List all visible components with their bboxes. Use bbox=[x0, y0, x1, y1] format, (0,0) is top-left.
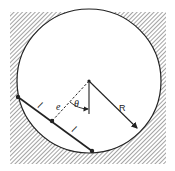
offset-label: e bbox=[56, 101, 61, 112]
center-point bbox=[87, 79, 90, 82]
radius-label: R bbox=[119, 103, 126, 113]
circle-chord-diagram: R e θ l l bbox=[0, 0, 175, 171]
chord-endpoint-lower bbox=[90, 149, 94, 153]
angle-label: θ bbox=[74, 98, 79, 109]
chord-endpoint-upper bbox=[16, 95, 20, 99]
